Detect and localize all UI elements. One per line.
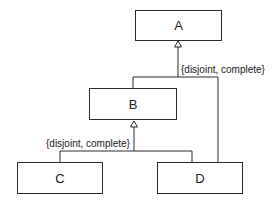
constraint-label-b: {disjoint, complete} bbox=[46, 138, 130, 149]
class-b-name: B bbox=[129, 97, 138, 112]
class-a: A bbox=[135, 10, 222, 41]
class-a-name: A bbox=[174, 18, 183, 33]
constraint-label-a: {disjoint, complete} bbox=[181, 64, 265, 75]
class-d-name: D bbox=[195, 171, 204, 186]
class-c-name: C bbox=[55, 171, 64, 186]
class-d: D bbox=[157, 162, 243, 194]
class-b: B bbox=[89, 88, 177, 120]
class-c: C bbox=[17, 162, 103, 194]
